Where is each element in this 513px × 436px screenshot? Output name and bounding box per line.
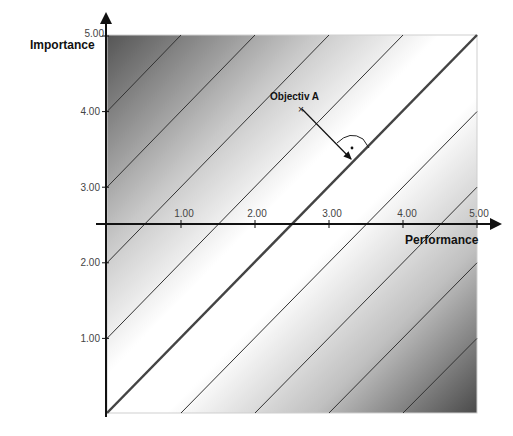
- y-axis-title: Importance: [30, 38, 95, 52]
- x-tick-label: 1.00: [174, 208, 194, 219]
- right-angle-dot-icon: [351, 147, 354, 150]
- x-tick-label: 4.00: [397, 208, 417, 219]
- performance-importance-chart: Objectiv A × 1.00 2.00 3.00 4.00 5.00 Im…: [0, 0, 513, 436]
- y-axis: 1.00 2.00 3.00 4.00 5.00 Importance: [30, 12, 112, 417]
- y-tick-label: 4.00: [81, 106, 101, 117]
- y-tick-label: 3.00: [81, 182, 101, 193]
- y-tick-label: 1.00: [81, 333, 101, 344]
- x-tick-label: 2.00: [247, 208, 267, 219]
- objective-a-label: Objectiv A: [270, 91, 319, 102]
- x-axis-title: Performance: [405, 233, 479, 247]
- x-tick-label: 5.00: [469, 208, 489, 219]
- x-tick-label: 3.00: [322, 208, 342, 219]
- y-axis-arrow-icon: [100, 12, 112, 24]
- x-axis-arrow-icon: [490, 218, 502, 230]
- y-tick-label: 2.00: [81, 257, 101, 268]
